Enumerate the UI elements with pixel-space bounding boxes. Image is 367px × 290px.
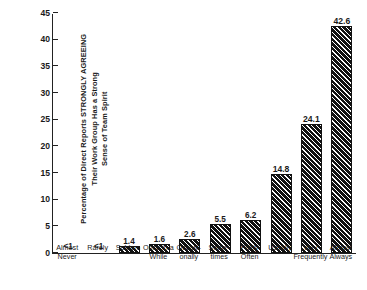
y-axis-tick-label: 5 <box>45 221 50 231</box>
bar-value-label: 24.1 <box>303 114 320 124</box>
y-axis-tick-label: 40 <box>40 34 50 44</box>
bar: 42.6 <box>331 26 352 253</box>
bar-value-label: 6.2 <box>245 211 256 220</box>
x-axis-category-label-line: Almost <box>318 243 364 252</box>
bar-value-label: 42.6 <box>333 16 350 26</box>
bar: 24.1 <box>301 124 322 253</box>
x-axis-category-label: AlmostAlways <box>318 243 364 262</box>
y-axis-title: Percentage of Direct Reports STRONGLY AG… <box>0 0 34 258</box>
y-axis-tick: 35 <box>53 65 58 66</box>
y-axis-tick: 15 <box>53 172 58 173</box>
y-axis-tick-label: 10 <box>40 194 50 204</box>
y-axis-tick: 25 <box>53 119 58 120</box>
y-axis-tick: 5 <box>53 225 58 226</box>
bar-value-label: 5.5 <box>214 215 225 224</box>
bar-chart-figure: Percentage of Direct Reports STRONGLY AG… <box>0 0 367 290</box>
y-axis-tick-label: 30 <box>40 88 50 98</box>
y-axis-tick-label: 45 <box>40 8 50 18</box>
y-axis-tick: 20 <box>53 145 58 146</box>
y-axis-tick: 45 <box>53 12 58 13</box>
y-axis-tick-label: 15 <box>40 168 50 178</box>
y-axis-tick: 30 <box>53 92 58 93</box>
y-axis-tick: 40 <box>53 39 58 40</box>
plot-area: 051015202530354045<1<1<1<11.41.62.65.56.… <box>52 14 356 254</box>
y-axis-tick: 10 <box>53 199 58 200</box>
bar: 14.8 <box>271 174 292 253</box>
bar-value-label: 2.6 <box>184 230 195 239</box>
x-axis-category-label-line: Never <box>44 252 90 261</box>
y-axis-tick-label: 20 <box>40 141 50 151</box>
bar-value-label: 14.8 <box>273 164 290 174</box>
x-axis-category-label-line: Often <box>227 252 273 261</box>
y-axis-tick-label: 25 <box>40 114 50 124</box>
x-axis-category-label-line: Always <box>318 252 364 261</box>
y-axis-tick-label: 35 <box>40 61 50 71</box>
